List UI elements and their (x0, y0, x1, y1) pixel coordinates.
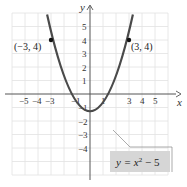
y-axis (87, 5, 93, 180)
x-axis-label: x (176, 96, 182, 108)
x-tick: 3 (127, 96, 132, 106)
y-axis-label: y (79, 1, 85, 13)
y-tick: −4 (78, 144, 88, 154)
y-tick: −2 (78, 117, 88, 127)
x-tick: −3 (45, 96, 55, 106)
y-tick: −3 (78, 130, 88, 140)
parabola-chart: x y −5 −4 −3 −1 1 3 4 5 5 4 3 2 1 −1 −2 … (0, 0, 187, 187)
point-left-marker (49, 38, 53, 42)
y-tick: 4 (82, 36, 87, 46)
x-tick-labels: −5 −4 −3 −1 1 3 4 5 (19, 96, 158, 106)
equation-label: y = x2 − 5 (115, 156, 160, 168)
x-tick: −5 (19, 96, 29, 106)
y-tick-labels: 5 4 3 2 1 −1 −2 −3 −4 (78, 22, 88, 154)
y-tick: 2 (82, 63, 87, 73)
y-tick: 3 (82, 49, 87, 59)
equation-callout: y = x2 − 5 (110, 130, 172, 172)
x-tick: 4 (140, 96, 145, 106)
x-tick: 5 (153, 96, 158, 106)
point-right-label: (3, 4) (131, 41, 153, 53)
x-tick: −4 (32, 96, 42, 106)
y-tick: 5 (82, 22, 87, 32)
point-left-label: (−3, 4) (14, 41, 41, 53)
y-tick: 1 (82, 76, 87, 86)
